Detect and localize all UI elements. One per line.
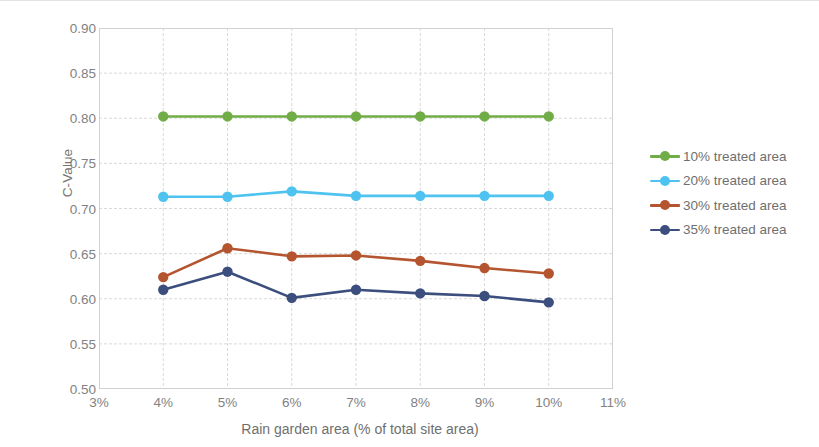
data-point (544, 191, 554, 201)
legend-marker-icon (650, 223, 680, 237)
y-axis-tick-label: 0.55 (36, 336, 96, 351)
data-point (415, 111, 425, 121)
legend-item-label: 35% treated area (680, 222, 787, 237)
data-point (287, 251, 297, 261)
x-axis-tick-label: 10% (519, 395, 579, 410)
data-point (415, 288, 425, 298)
legend-item-label: 10% treated area (680, 149, 787, 164)
plot-area (99, 28, 613, 389)
x-axis-tick-label: 7% (326, 395, 386, 410)
data-point (287, 293, 297, 303)
legend-marker-icon (650, 149, 680, 163)
y-axis-tick-label: 0.65 (36, 246, 96, 261)
chart-legend: 10% treated area20% treated area30% trea… (650, 144, 815, 242)
data-point (287, 186, 297, 196)
plot-svg (99, 28, 613, 389)
x-axis-title: Rain garden area (% of total site area) (100, 421, 620, 437)
legend-item[interactable]: 10% treated area (650, 144, 815, 169)
x-axis-tick-label: 5% (198, 395, 258, 410)
x-axis-tick-label: 6% (262, 395, 322, 410)
y-axis-tick-label: 0.75 (36, 156, 96, 171)
y-axis-tick-label: 0.85 (36, 66, 96, 81)
data-point (544, 268, 554, 278)
y-axis-tick-label: 0.80 (36, 111, 96, 126)
data-point (544, 297, 554, 307)
legend-item[interactable]: 30% treated area (650, 193, 815, 218)
data-point (158, 111, 168, 121)
x-axis-tick-label: 3% (69, 395, 129, 410)
data-point (287, 111, 297, 121)
data-point (351, 285, 361, 295)
data-point (351, 250, 361, 260)
data-point (351, 191, 361, 201)
legend-item[interactable]: 20% treated area (650, 169, 815, 194)
data-point (415, 256, 425, 266)
y-axis-tick-labels: 0.500.550.600.650.700.750.800.850.90 (40, 1, 96, 447)
y-axis-tick-label: 0.60 (36, 291, 96, 306)
data-point (479, 291, 489, 301)
y-axis-tick-label: 0.70 (36, 201, 96, 216)
data-point (479, 263, 489, 273)
data-point (222, 111, 232, 121)
x-axis-tick-label: 4% (133, 395, 193, 410)
x-axis-tick-label: 8% (390, 395, 450, 410)
data-point (158, 285, 168, 295)
data-point (158, 192, 168, 202)
x-axis-tick-label: 9% (455, 395, 515, 410)
legend-item-label: 30% treated area (680, 198, 787, 213)
data-point (351, 111, 361, 121)
legend-marker-icon (650, 198, 680, 212)
data-point (544, 111, 554, 121)
legend-item-label: 20% treated area (680, 173, 787, 188)
data-point (222, 192, 232, 202)
data-point (222, 243, 232, 253)
data-point (479, 191, 489, 201)
legend-marker-icon (650, 174, 680, 188)
data-point (222, 266, 232, 276)
line-chart: C-Value 0.500.550.600.650.700.750.800.85… (0, 0, 819, 447)
x-axis-tick-label: 11% (583, 395, 643, 410)
data-point (158, 272, 168, 282)
data-point (479, 111, 489, 121)
legend-item[interactable]: 35% treated area (650, 218, 815, 243)
data-point (415, 191, 425, 201)
y-axis-tick-label: 0.90 (36, 21, 96, 36)
